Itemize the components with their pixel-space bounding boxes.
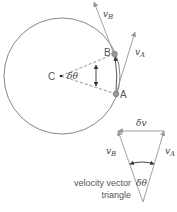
center-label: C bbox=[48, 71, 55, 82]
arc-a-to-b bbox=[115, 57, 117, 92]
triangle-vb-label: vB bbox=[106, 146, 116, 158]
velocity-b-label: vB bbox=[103, 9, 113, 21]
center-dot bbox=[60, 75, 63, 78]
point-b-marker bbox=[112, 51, 118, 57]
point-a-label: A bbox=[120, 89, 127, 100]
diagram-canvas: C δθ B A vB vA δv vB vA δθ velocity vect… bbox=[0, 0, 177, 212]
angle-label: δθ bbox=[67, 71, 78, 81]
triangle-angle-label: δθ bbox=[136, 178, 147, 188]
point-b-label: B bbox=[104, 47, 111, 58]
caption-line2: triangle bbox=[101, 190, 131, 200]
triangle-angle-arrow bbox=[130, 162, 154, 164]
delta-v-label: δv bbox=[136, 118, 147, 128]
triangle-va-label: vA bbox=[165, 146, 175, 158]
velocity-a-label: vA bbox=[135, 47, 145, 59]
triangle-va bbox=[143, 131, 164, 202]
point-a-marker bbox=[113, 91, 119, 97]
caption-line1: velocity vector bbox=[74, 178, 131, 188]
